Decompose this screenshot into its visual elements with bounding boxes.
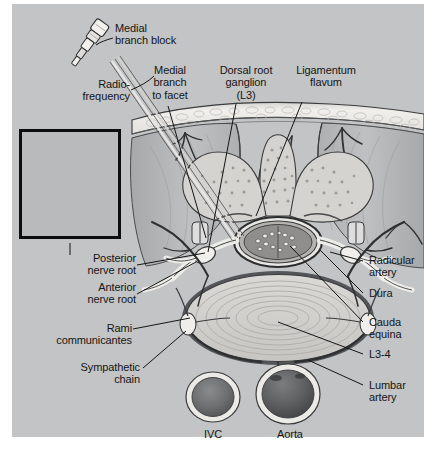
label-rami-communicantes: Rami communicantes <box>16 322 132 347</box>
label-l3-4: L3-4 <box>369 348 391 360</box>
label-anterior-nerve-root: Anterior nerve root <box>36 281 136 306</box>
label-lumbar-artery: Lumbar artery <box>369 379 406 404</box>
label-sympathetic-chain: Sympathetic chain <box>40 361 140 386</box>
inset-frame-border <box>19 129 121 239</box>
label-medial-branch-block: Medial branch block <box>115 22 176 47</box>
label-ivc: IVC <box>190 428 236 440</box>
label-posterior-nerve-root: Posterior nerve root <box>36 252 136 277</box>
label-ligamentum-flavum: Ligamentum flavum <box>278 64 374 89</box>
label-aorta: Aorta <box>263 428 317 440</box>
label-cauda-equina: Cauda equina <box>369 316 401 341</box>
label-radiofrequency: Radio- frequency <box>30 78 130 103</box>
label-dura: Dura <box>369 287 392 299</box>
label-radicular-artery: Radicular artery <box>369 254 415 279</box>
illustration-figure: Medial branch block Radio- frequency Med… <box>0 0 436 462</box>
